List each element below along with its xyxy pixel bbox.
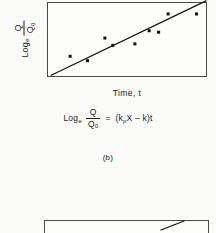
- equation-line: Loge Q Q0 = (kpX – k)t: [0, 108, 216, 128]
- next-plot-canvas: [0, 196, 216, 233]
- figure-b: Loge Q Q0 Time, t Loge Q: [0, 0, 216, 170]
- equation-log-subscript: e: [79, 118, 83, 124]
- equation-rhs-rest: X – k)t: [127, 113, 153, 123]
- equation-denominator-base: Q: [88, 120, 95, 129]
- equation-log-text: Log: [63, 113, 78, 123]
- data-point: [157, 31, 160, 34]
- equation-fraction: Q Q0: [86, 108, 100, 128]
- data-point: [103, 37, 106, 40]
- data-point: [111, 44, 114, 47]
- scatter-plot-canvas: [0, 0, 216, 90]
- data-point: [195, 12, 198, 15]
- x-axis-label: Time, t: [47, 88, 207, 98]
- equals-sign: =: [105, 113, 110, 123]
- equation-numerator: Q: [88, 108, 99, 118]
- data-point: [86, 59, 89, 62]
- data-point: [133, 42, 136, 45]
- equation-denominator: Q0: [86, 119, 100, 129]
- next-figure-panel-fragment: [0, 196, 216, 233]
- data-point: [69, 55, 72, 58]
- figure-page: Loge Q Q0 Time, t Loge Q: [0, 0, 216, 233]
- equation-denominator-subscript: 0: [95, 123, 99, 129]
- data-point-group: [69, 12, 198, 62]
- equation-right-hand-side: (kpX – k)t: [116, 113, 153, 123]
- figure-caption-b: (b): [0, 153, 216, 162]
- data-point: [148, 29, 151, 32]
- trend-line: [51, 1, 206, 75]
- trend-line-segment: [51, 1, 206, 75]
- data-point: [167, 12, 170, 15]
- equation-log-term: Loge: [63, 113, 82, 123]
- equation-rhs-open: (k: [116, 113, 123, 123]
- next-plot-diagonal-segment: [161, 221, 184, 230]
- equation-rhs-subscript: p: [123, 118, 127, 124]
